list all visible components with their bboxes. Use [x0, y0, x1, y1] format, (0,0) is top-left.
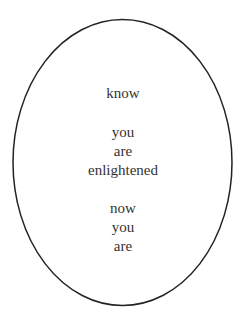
- poem-line: now: [0, 199, 246, 218]
- poem-line: you: [0, 218, 246, 237]
- poem-line: are: [0, 142, 246, 161]
- poem-line: you: [0, 123, 246, 142]
- poem-line: know: [0, 84, 246, 103]
- poem-line: are: [0, 237, 246, 256]
- poem-line: enlightened: [0, 161, 246, 180]
